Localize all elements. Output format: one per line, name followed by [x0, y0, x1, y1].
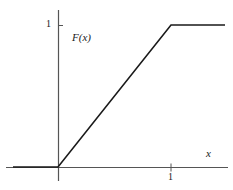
- x-axis-tick-label: 1: [168, 172, 173, 182]
- cdf-curve: [13, 25, 225, 167]
- y-axis-tick-label: 1: [46, 19, 51, 29]
- y-axis-label: F(x): [72, 32, 91, 43]
- plot-canvas: [0, 0, 233, 190]
- x-axis-label: x: [206, 148, 211, 159]
- cdf-figure: 1 1 F(x) x: [0, 0, 233, 190]
